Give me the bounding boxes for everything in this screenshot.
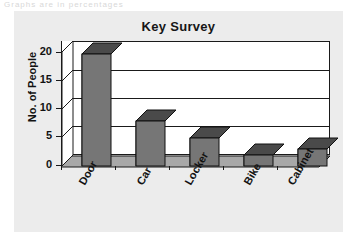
x-tick-0: [61, 166, 62, 170]
tick-connector-5: [62, 126, 74, 150]
tick-connector-10: [62, 98, 74, 122]
bar-locker[interactable]: [190, 41, 240, 167]
x-tick-2: [169, 166, 170, 170]
plot-area: 20 15 10 5 0 No. of People: [14, 41, 343, 176]
chart-title: Key Survey: [14, 19, 343, 34]
bar-car[interactable]: [136, 41, 186, 167]
x-tick-1: [115, 166, 116, 170]
page-top-artifact: Graphs are in percentages: [0, 0, 355, 11]
chart-container: Key Survey: [14, 11, 343, 232]
y-tick-15: [56, 80, 62, 81]
x-tick-4: [277, 166, 278, 170]
bar-door[interactable]: [82, 41, 132, 167]
x-tick-3: [223, 166, 224, 170]
tick-connector-15: [62, 70, 74, 94]
bar-bike[interactable]: [244, 41, 294, 167]
y-axis-line: [61, 41, 62, 167]
y-axis-title: No. of People: [26, 39, 38, 135]
y-tick-label-0: 0: [30, 159, 52, 170]
y-tick-5: [56, 136, 62, 137]
y-tick-20: [56, 52, 62, 53]
y-tick-10: [56, 108, 62, 109]
